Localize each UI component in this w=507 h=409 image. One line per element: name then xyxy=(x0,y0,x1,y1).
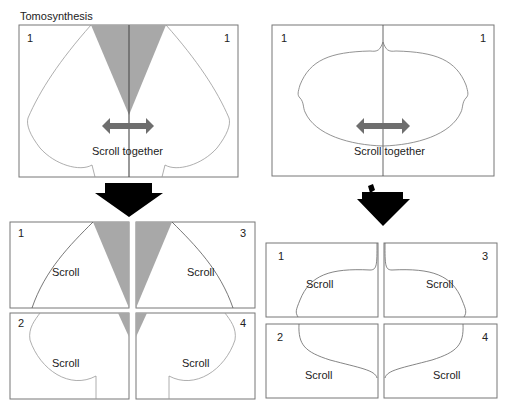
left-top-panel: 1 1 Scroll together xyxy=(19,25,238,177)
svg-text:4: 4 xyxy=(482,331,488,343)
svg-text:Scroll: Scroll xyxy=(426,278,454,290)
svg-text:1: 1 xyxy=(480,32,486,44)
svg-text:3: 3 xyxy=(482,250,488,262)
svg-text:1: 1 xyxy=(18,227,24,239)
svg-text:Scroll: Scroll xyxy=(187,266,215,278)
right-quad-3: 3 Scroll xyxy=(384,243,497,317)
right-top-panel: 1 1 Scroll together xyxy=(272,25,494,176)
svg-text:2: 2 xyxy=(277,331,283,343)
cursor-glyph-icon xyxy=(368,184,375,193)
diagram-title: Tomosynthesis xyxy=(20,10,93,22)
svg-text:1: 1 xyxy=(278,250,284,262)
panel-number: 1 xyxy=(224,32,230,44)
svg-text:2: 2 xyxy=(18,317,24,329)
left-quad-1: 1 Scroll xyxy=(10,222,129,308)
svg-text:1: 1 xyxy=(281,32,287,44)
left-quad-3: 3 Scroll xyxy=(136,222,255,308)
tomosynthesis-diagram: Tomosynthesis 1 1 Scroll together 1 Scro… xyxy=(0,0,507,409)
svg-text:Scroll: Scroll xyxy=(182,357,210,369)
svg-text:Scroll: Scroll xyxy=(305,369,333,381)
right-quad-1: 1 Scroll xyxy=(266,243,378,317)
svg-text:Scroll: Scroll xyxy=(306,278,334,290)
scroll-together-label: Scroll together xyxy=(354,145,425,157)
down-arrow-icon xyxy=(357,192,410,226)
left-quad-4: 4 Scroll xyxy=(136,313,255,399)
right-quad-4: 4 Scroll xyxy=(384,324,497,398)
svg-text:3: 3 xyxy=(240,227,246,239)
left-quad-2: 2 Scroll xyxy=(10,313,129,399)
svg-text:Scroll: Scroll xyxy=(433,369,461,381)
down-arrow-icon xyxy=(95,183,163,217)
svg-text:4: 4 xyxy=(240,317,246,329)
svg-text:Scroll: Scroll xyxy=(52,266,80,278)
scroll-together-label: Scroll together xyxy=(92,145,163,157)
svg-text:Scroll: Scroll xyxy=(52,357,80,369)
right-quad-2: 2 Scroll xyxy=(266,324,378,398)
panel-number: 1 xyxy=(27,32,33,44)
